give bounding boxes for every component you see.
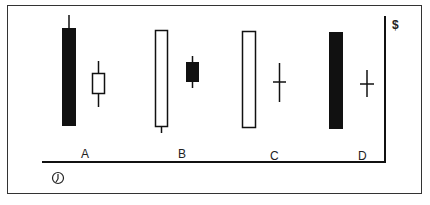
candle-group-d — [329, 32, 374, 129]
candle-body-white — [93, 74, 105, 94]
candlestick-chart: $ A B C D — [0, 0, 430, 205]
candle-group-a — [62, 15, 105, 126]
candle-body-black — [186, 62, 199, 82]
candle-body-white — [156, 31, 168, 127]
candle-body-white — [243, 32, 256, 128]
group-label-b: B — [178, 147, 186, 161]
candle-group-c — [243, 32, 287, 128]
group-label-d: D — [358, 149, 367, 163]
group-label-a: A — [81, 147, 89, 161]
clock-icon — [53, 173, 64, 184]
y-axis-label: $ — [392, 18, 399, 32]
candle-body-black — [329, 32, 343, 129]
group-label-c: C — [270, 149, 279, 163]
candle-group-b — [156, 31, 200, 134]
candle-body-black — [62, 28, 76, 126]
